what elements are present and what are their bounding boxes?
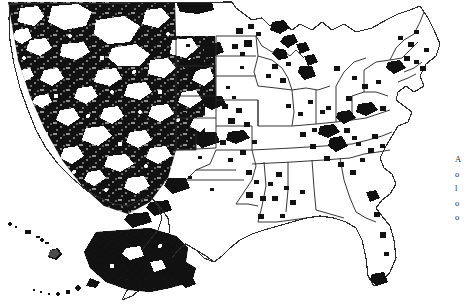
legend-line-4: o <box>455 196 465 211</box>
us-distribution-map-figure: A o l o o United States Distribution Map <box>0 0 465 305</box>
us-map-svg <box>0 0 465 305</box>
legend-line-1: A <box>455 152 465 167</box>
legend-line-3: l <box>455 181 465 196</box>
legend-line-5: o <box>455 210 465 225</box>
map-legend: A o l o o <box>455 152 465 225</box>
legend-line-2: o <box>455 167 465 182</box>
